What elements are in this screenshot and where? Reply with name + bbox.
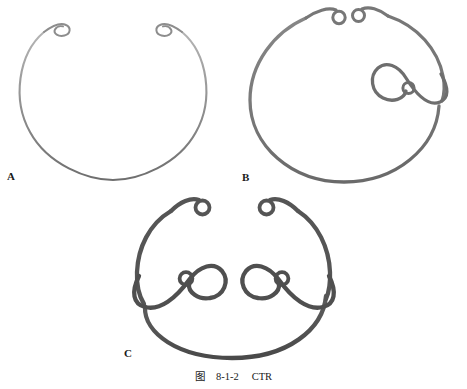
panel-c-ctr-two-hooks	[118, 192, 353, 364]
fixation-hook-right-c	[242, 266, 333, 308]
figure-container: A B C 图8-1-2CTR	[0, 0, 467, 389]
panel-a-ctr-standard	[8, 8, 218, 183]
figure-caption: 图8-1-2CTR	[0, 368, 467, 383]
eyelet-ring-right-b	[353, 10, 365, 22]
caption-title: CTR	[252, 371, 272, 382]
ring-upper-left-arc-c	[137, 211, 171, 304]
caption-prefix: 图	[195, 371, 205, 382]
panel-label-a: A	[7, 171, 15, 182]
ring-body-b	[250, 18, 439, 182]
ctr-diagram-b	[240, 2, 462, 187]
panel-label-b: B	[242, 172, 250, 183]
ring-body-a	[20, 32, 207, 180]
ctr-diagram-a	[8, 8, 218, 183]
ctr-diagram-c	[118, 192, 353, 364]
ring-body-c	[145, 296, 326, 358]
fixation-hook-left-c	[134, 266, 225, 308]
panel-label-c: C	[124, 348, 132, 359]
eyelet-ring-left-b	[333, 11, 345, 23]
ring-upper-right-arc-b	[388, 16, 444, 101]
panel-b-ctr-one-hook	[240, 2, 462, 187]
eyelet-left-a	[44, 24, 70, 36]
eyelet-ring-right-c	[260, 201, 274, 215]
caption-number: 8-1-2	[216, 371, 239, 382]
ring-upper-right-arc-c	[298, 211, 330, 299]
eyelet-right-a	[156, 24, 182, 36]
eyelet-ring-left-c	[196, 201, 210, 215]
